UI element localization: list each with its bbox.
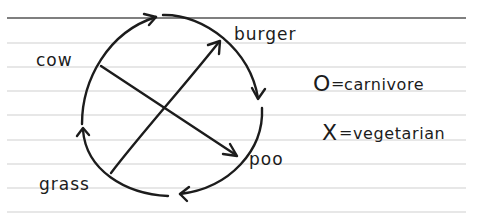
legend-symbol-cross: X <box>322 120 337 145</box>
line-cow-to-poo <box>101 66 236 155</box>
legend-meaning-carnivore: carnivore <box>344 75 424 94</box>
cross-lines <box>101 41 237 173</box>
legend-meaning-vegetarian: vegetarian <box>353 124 445 143</box>
legend-item-vegetarian: X = vegetarian <box>322 120 445 145</box>
arrowhead-right-icon <box>252 88 265 99</box>
label-poo: poo <box>249 149 284 169</box>
legend-item-carnivore: O = carnivore <box>313 71 424 96</box>
legend-symbol-circle: O <box>313 71 330 96</box>
line-grass-to-burger <box>111 42 219 173</box>
legend: O = carnivore X = vegetarian <box>313 71 445 145</box>
label-grass: grass <box>39 174 90 194</box>
label-cow: cow <box>36 50 73 70</box>
legend-equals: = <box>331 74 345 93</box>
cycle-diagram: cow burger poo grass O = carnivore X = v… <box>0 0 477 224</box>
label-burger: burger <box>234 24 297 44</box>
legend-equals: = <box>339 123 353 142</box>
arc-cow-to-top <box>82 17 156 124</box>
